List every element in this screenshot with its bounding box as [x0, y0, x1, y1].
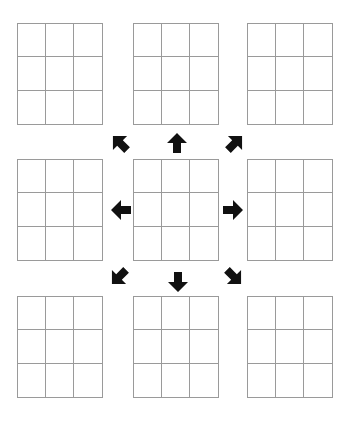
grid-cell	[248, 364, 276, 397]
grid-cell	[190, 193, 218, 226]
grid-cell	[162, 160, 190, 193]
grid-cell	[74, 91, 102, 124]
grid-cell	[304, 330, 332, 363]
grid-cell	[190, 330, 218, 363]
grid-cell	[162, 193, 190, 226]
grid-cell	[74, 227, 102, 260]
grid-cell	[46, 364, 74, 397]
grid-cell	[276, 24, 304, 57]
grid-cell	[162, 364, 190, 397]
grid-cell	[304, 193, 332, 226]
grid-cell	[276, 227, 304, 260]
grid-cell	[46, 193, 74, 226]
arrow-left-icon	[110, 199, 132, 221]
grid-cell	[134, 160, 162, 193]
arrow-down-left-icon	[103, 261, 134, 292]
grid-cell	[190, 160, 218, 193]
grid-cell	[276, 330, 304, 363]
grid-cell	[190, 227, 218, 260]
arrow-down-right-icon	[218, 261, 249, 292]
grid-cell	[46, 297, 74, 330]
grid-cell	[304, 364, 332, 397]
grid-cell	[134, 297, 162, 330]
grid-cell	[46, 24, 74, 57]
grid-bottom-left	[17, 296, 103, 398]
grid-cell	[304, 91, 332, 124]
grid-cell	[276, 193, 304, 226]
grid-cell	[276, 57, 304, 90]
grid-cell	[276, 364, 304, 397]
grid-cell	[248, 91, 276, 124]
arrow-right-icon	[222, 199, 244, 221]
grid-cell	[18, 160, 46, 193]
arrow-up-right-icon	[219, 127, 250, 158]
grid-cell	[304, 57, 332, 90]
grid-cell	[46, 330, 74, 363]
grid-cell	[304, 297, 332, 330]
grid-cell	[248, 227, 276, 260]
grid-cell	[46, 160, 74, 193]
grid-cell	[18, 193, 46, 226]
grid-cell	[248, 160, 276, 193]
grid-cell	[248, 193, 276, 226]
grid-cell	[190, 91, 218, 124]
grid-cell	[18, 91, 46, 124]
grid-cell	[190, 24, 218, 57]
grid-cell	[74, 193, 102, 226]
grid-cell	[18, 57, 46, 90]
grid-cell	[134, 91, 162, 124]
grid-cell	[276, 91, 304, 124]
grid-cell	[304, 227, 332, 260]
grid-cell	[46, 227, 74, 260]
grid-cell	[18, 297, 46, 330]
arrow-up-icon	[166, 132, 188, 154]
grid-cell	[74, 24, 102, 57]
grid-cell	[190, 297, 218, 330]
grid-top-right	[247, 23, 333, 125]
grid-cell	[190, 57, 218, 90]
grid-cell	[46, 91, 74, 124]
grid-cell	[162, 91, 190, 124]
arrow-down-icon	[167, 271, 189, 293]
grid-cell	[134, 57, 162, 90]
grid-cell	[162, 330, 190, 363]
grid-cell	[134, 193, 162, 226]
grid-center	[133, 159, 219, 261]
grid-cell	[276, 297, 304, 330]
grid-cell	[18, 330, 46, 363]
grid-cell	[74, 57, 102, 90]
grid-bottom-center	[133, 296, 219, 398]
grid-middle-left	[17, 159, 103, 261]
grid-cell	[304, 24, 332, 57]
grid-cell	[162, 297, 190, 330]
grid-cell	[248, 297, 276, 330]
grid-cell	[162, 227, 190, 260]
grid-top-left	[17, 23, 103, 125]
grid-cell	[74, 330, 102, 363]
grid-cell	[134, 227, 162, 260]
grid-cell	[134, 330, 162, 363]
grid-cell	[248, 330, 276, 363]
arrow-up-left-icon	[104, 127, 135, 158]
grid-cell	[276, 160, 304, 193]
grid-cell	[162, 57, 190, 90]
grid-cell	[190, 364, 218, 397]
grid-cell	[74, 160, 102, 193]
grid-cell	[46, 57, 74, 90]
grid-middle-right	[247, 159, 333, 261]
grid-cell	[18, 364, 46, 397]
grid-cell	[248, 24, 276, 57]
grid-cell	[248, 57, 276, 90]
grid-cell	[134, 24, 162, 57]
grid-cell	[74, 364, 102, 397]
grid-cell	[162, 24, 190, 57]
grid-cell	[74, 297, 102, 330]
grid-cell	[18, 24, 46, 57]
grid-top-center	[133, 23, 219, 125]
grid-bottom-right	[247, 296, 333, 398]
grid-cell	[18, 227, 46, 260]
grid-cell	[304, 160, 332, 193]
grid-cell	[134, 364, 162, 397]
